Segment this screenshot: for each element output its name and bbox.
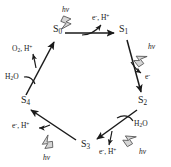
transition-s2-to-s3 [97,110,137,139]
species-4-mid: , H [17,121,26,130]
state-s1-subscript: 1 [125,28,129,36]
species-3-mid: , H [104,147,113,156]
species-5-mid: O [13,72,18,81]
state-s4-subscript: 4 [27,99,31,107]
photon-label-s3-s4: hν [43,154,50,162]
species-label-products-s4-s0: O2, H+ [12,45,32,54]
species-label-products-s3-s4: e-, H+ [12,122,29,130]
state-label-s1: S1 [119,24,128,36]
branch-substrate-s4 [24,77,35,84]
transition-s3-to-s4 [31,110,76,140]
species-6-mid: , H [20,44,29,53]
species-0-mid: , H [97,13,106,22]
photon-bolt-s1-s2-icon [133,51,150,67]
species-0-sup2: + [106,13,109,19]
branch-products-s3-s4 [39,125,50,128]
species-2-mid: O [142,119,147,128]
branch-products-s2-s3 [109,131,112,145]
state-label-s4: S4 [21,95,30,107]
state-s3-subscript: 3 [87,143,91,151]
photon-label-s1-s2: hν [148,43,155,51]
species-label-product-s1-s2: e- [145,73,150,81]
species-label-substrate-s4: H2O [5,73,19,82]
state-label-s3: S3 [81,139,90,151]
photon-bolt-s3-s4-icon [41,134,53,148]
species-label-products-s0-s1: e-, H+ [92,14,109,22]
species-label-substrate-s2: H2O [134,120,148,129]
species-6-sup2: + [29,44,32,50]
photon-label-s2-s3: hν [139,148,146,156]
species-1-sup1: - [148,72,150,78]
photon-bolt-s2-s3-icon [122,131,139,147]
photon-label-s0-s1: hν [62,6,69,14]
species-4-sup2: + [26,121,29,127]
species-label-products-s2-s3: e-, H+ [99,148,116,156]
kok-cycle-diagram: S0 S1 S2 S3 S4 e-, H+ e- H2O e-, H+ e-, … [0,0,171,167]
state-s2-subscript: 2 [144,99,148,107]
state-s0-subscript: 0 [59,28,63,36]
species-3-sup2: + [113,147,116,153]
state-label-s2: S2 [138,95,147,107]
state-label-s0: S0 [53,24,62,36]
branch-products-s4-s0 [33,54,36,68]
